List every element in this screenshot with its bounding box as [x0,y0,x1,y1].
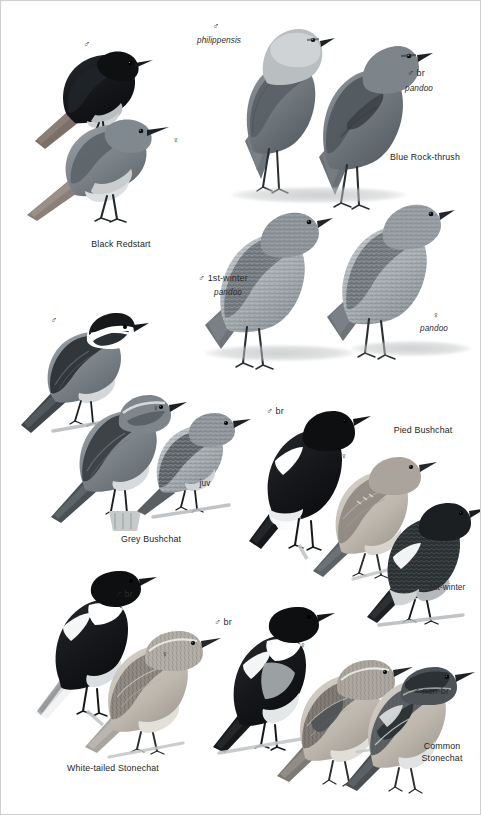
label-grey-bushchat-female-symbol: ♀ [153,403,160,414]
ground-smudge-female [351,341,471,356]
label-black-redstart-female-symbol: ♀ [173,135,180,146]
species-name-blue-rock-thrush: Blue Rock-thrush [390,152,460,163]
label-black-redstart-male-symbol: ♂ [84,39,91,50]
bird-pied-bushchat-male-1st-winter [359,491,479,631]
bird-black-redstart-female [21,109,171,229]
field-guide-plate: ♂ ♀ Black Redstart ♂ philippensis ♂ br p… [0,0,481,815]
label-blue-rock-thrush-male-br-pandoo-symbol: ♂ br [407,68,425,79]
label-blue-rock-thrush-male-br-pandoo-subspecies: pandoo [405,84,433,94]
species-name-black-redstart: Black Redstart [91,239,150,250]
label-common-stonechat-female-symbol: ♀ [300,640,307,651]
species-name-white-tailed-stonechat: White-tailed Stonechat [67,763,159,774]
label-white-tailed-stonechat-female-symbol: ♀ [162,649,169,660]
label-blue-rock-thrush-female-pandoo-subspecies: pandoo [420,324,448,334]
label-common-stonechat-male-non-br-symbol: ♂ non-br [413,686,449,697]
species-name-pied-bushchat: Pied Bushchat [394,425,453,436]
label-pied-bushchat-male-1st-winter-age: 1st-winter [429,583,466,593]
label-pied-bushchat-male-br-symbol: ♂ br [266,406,284,417]
label-white-tailed-stonechat-male-br-symbol: ♂ br [115,589,133,600]
label-pied-bushchat-male-1st-winter-symbol: ♂ [441,568,448,579]
label-blue-rock-thrush-male-philippensis-subspecies: philippensis [197,36,241,46]
label-blue-rock-thrush-male-1st-winter-pandoo-subspecies: pandoo [214,288,242,298]
label-pied-bushchat-female-symbol: ♀ [341,451,348,462]
label-blue-rock-thrush-female-pandoo-symbol: ♀ [433,310,440,321]
bird-blue-rock-thrush-female-pandoo [319,191,454,366]
bird-white-tailed-stonechat-female [79,621,209,761]
label-blue-rock-thrush-male-1st-winter-pandoo-symbol: ♂ 1st-winter [198,273,247,284]
bird-grey-bushchat-juvenile [133,399,243,519]
bird-common-stonechat-male-non-br [339,649,459,799]
label-grey-bushchat-juvenile: juv [200,479,211,489]
label-blue-rock-thrush-male-philippensis-symbol: ♂ [213,21,220,32]
label-grey-bushchat-male-symbol: ♂ [51,315,58,326]
label-common-stonechat-male-br-symbol: ♂ br [214,617,232,628]
species-name-grey-bushchat: Grey Bushchat [121,534,181,545]
species-name-common-stonechat: Common Stonechat [422,741,463,764]
